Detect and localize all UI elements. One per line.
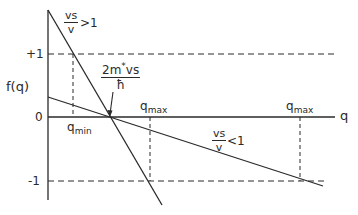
qmax-shallow-q: q	[286, 99, 294, 113]
shallow-condition-denominator: v	[216, 141, 223, 153]
qmin-label: qmin	[67, 121, 92, 133]
steep-condition-denominator: v	[68, 23, 75, 35]
qmax-steep-sub: max	[148, 105, 168, 115]
x-axis-label: q	[340, 109, 348, 122]
qmax-steep-label: qmax	[140, 100, 167, 112]
intercept-num-sup: *	[121, 61, 126, 71]
steep-condition-relation: >1	[80, 17, 98, 29]
steep-condition-numerator: vs	[64, 10, 78, 23]
tick-label-zero: 0	[35, 111, 43, 123]
shallow-condition-fraction: vs v	[212, 128, 226, 153]
shallow-condition-numerator: vs	[212, 128, 226, 141]
shallow-line	[48, 97, 323, 186]
intercept-annotation: 2m*vs ħ	[101, 64, 140, 91]
intercept-numerator: 2m*vs	[101, 64, 140, 78]
tick-label-minus-one: -1	[28, 175, 40, 187]
y-axis-label: f(q)	[6, 80, 29, 93]
intercept-num-main: 2m	[102, 63, 121, 77]
qmax-shallow-label: qmax	[286, 100, 313, 112]
intercept-denominator: ħ	[116, 78, 124, 91]
shallow-condition-relation: <1	[227, 135, 245, 147]
qmin-q: q	[67, 120, 75, 134]
qmax-shallow-sub: max	[294, 105, 314, 115]
qmax-steep-q: q	[140, 99, 148, 113]
qmin-sub: min	[75, 126, 92, 136]
tick-label-plus-one: +1	[26, 48, 44, 60]
steep-condition-fraction: vs v	[64, 10, 78, 35]
intercept-num-tail: vs	[126, 63, 139, 77]
